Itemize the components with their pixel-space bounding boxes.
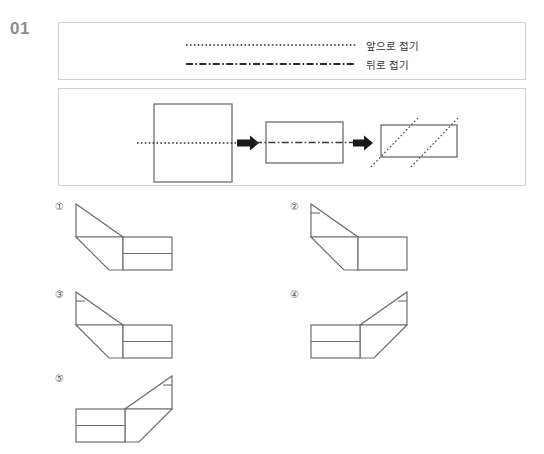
dash-dot-line-icon — [186, 59, 356, 69]
legend-box: 앞으로 접기 뒤로 접기 — [58, 22, 526, 80]
sequence-step-2 — [255, 122, 355, 163]
legend-label-fold-backward: 뒤로 접기 — [366, 57, 409, 72]
dotted-line-icon — [186, 40, 356, 50]
option-marker-5: ⑤ — [55, 374, 64, 384]
option-marker-2: ② — [290, 202, 299, 212]
option-figure-2 — [306, 200, 418, 276]
legend-label-fold-forward: 앞으로 접기 — [366, 38, 419, 53]
problem-page: 01 앞으로 접기 뒤로 접기 — [0, 0, 544, 454]
option-marker-4: ④ — [290, 290, 299, 300]
folding-sequence-box — [58, 88, 526, 186]
option-figure-5 — [71, 372, 183, 448]
legend-row-fold-backward: 뒤로 접기 — [186, 57, 409, 71]
problem-number: 01 — [10, 20, 30, 37]
sequence-arrow-2 — [353, 136, 373, 151]
sequence-step-1 — [137, 104, 249, 182]
option-figure-1 — [71, 200, 183, 276]
option-figure-4 — [306, 288, 418, 364]
legend-row-fold-forward: 앞으로 접기 — [186, 38, 419, 52]
option-marker-1: ① — [55, 202, 64, 212]
option-marker-3: ③ — [55, 290, 64, 300]
folding-sequence-diagram — [59, 89, 525, 185]
sequence-step-3 — [371, 117, 459, 167]
option-figure-3 — [71, 288, 183, 364]
